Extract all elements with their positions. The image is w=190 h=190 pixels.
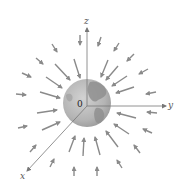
field-arrow <box>114 124 129 134</box>
x-axis-label: x <box>20 172 25 181</box>
field-arrow <box>117 113 136 118</box>
field-arrow <box>95 137 100 155</box>
field-arrow <box>30 145 36 152</box>
field-arrow <box>139 69 148 74</box>
field-arrow <box>50 159 54 167</box>
x-axis <box>27 106 87 171</box>
field-arrow <box>114 43 119 51</box>
field-arrow <box>127 54 134 61</box>
field-arrow <box>46 77 62 88</box>
origin-label: 0 <box>77 100 83 109</box>
radial-vector-field-diagram <box>0 0 190 190</box>
field-arrow <box>106 66 118 80</box>
field-arrow <box>18 126 27 128</box>
field-arrow <box>147 112 157 113</box>
field-arrow <box>106 131 118 147</box>
field-arrow <box>74 59 80 78</box>
field-arrow <box>116 87 134 93</box>
field-arrow <box>55 64 70 80</box>
field-arrow <box>16 94 26 95</box>
field-arrow <box>83 138 84 156</box>
field-arrow <box>117 160 122 168</box>
y-axis-label: y <box>168 101 173 110</box>
field-arrow <box>36 58 43 64</box>
field-arrow <box>143 129 152 133</box>
field-arrow <box>112 76 127 86</box>
field-arrow <box>134 145 140 153</box>
field-arrow <box>22 73 31 77</box>
field-arrow <box>69 136 75 152</box>
field-arrow <box>146 92 156 94</box>
field-arrow <box>52 44 57 52</box>
field-arrow <box>101 60 108 77</box>
field-arrow <box>42 122 60 130</box>
field-arrow <box>40 92 60 98</box>
z-axis-label: z <box>84 17 89 26</box>
field-arrow <box>37 110 57 113</box>
field-arrow <box>98 37 101 46</box>
